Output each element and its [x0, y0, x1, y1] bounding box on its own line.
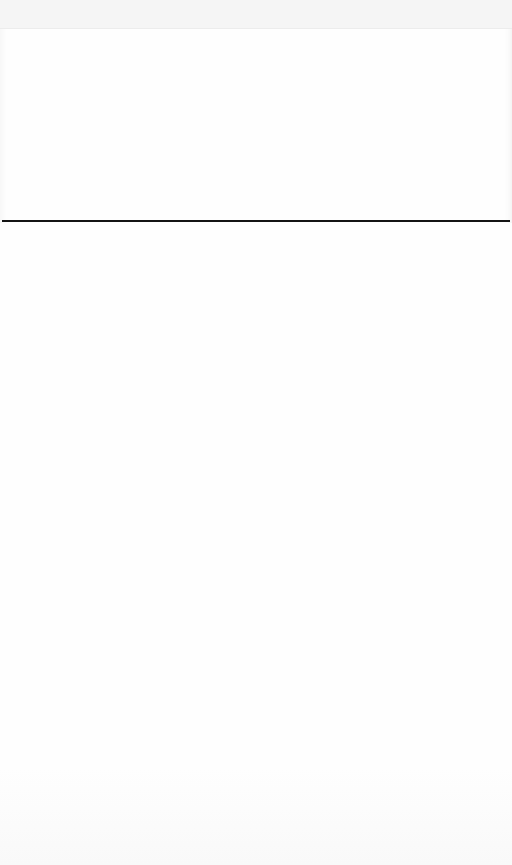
lower-content-area — [0, 223, 512, 865]
blank-page — [0, 0, 512, 865]
upper-content-area — [0, 29, 512, 219]
header-band — [0, 0, 512, 29]
horizontal-divider — [2, 220, 510, 222]
